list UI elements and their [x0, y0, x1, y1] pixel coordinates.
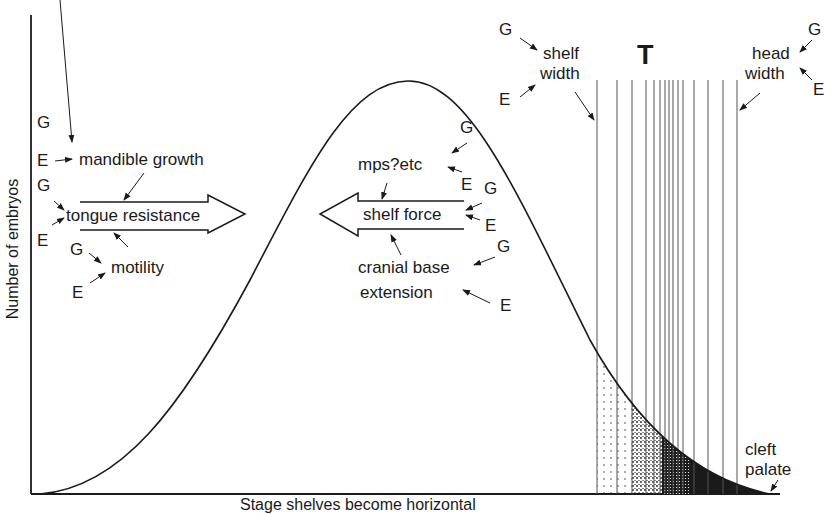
label-cranial-base: cranial base	[358, 258, 450, 277]
cranial-base-e: E	[500, 296, 511, 315]
y-axis-label: Number of embryos	[4, 174, 22, 324]
x-axis-label: Stage shelves become horizontal	[240, 496, 476, 514]
label-motility: motility	[111, 258, 164, 277]
mps-g: G	[460, 118, 473, 137]
label-palate: palate	[745, 460, 791, 479]
pointer-arrows	[52, 0, 812, 491]
label-shelf-force: shelf force	[363, 205, 441, 224]
motility-g: G	[70, 240, 83, 259]
label-head: head	[752, 44, 790, 63]
mandible-growth-g: G	[37, 113, 50, 132]
tongue-resistance-g: G	[37, 176, 50, 195]
tongue-resistance-e: E	[37, 231, 48, 250]
label-mps-etc: mps?etc	[358, 155, 422, 174]
label-extension: extension	[360, 283, 433, 302]
threshold-label: T	[637, 40, 654, 71]
label-cleft: cleft	[745, 440, 776, 459]
label-mandible-growth: mandible growth	[79, 150, 204, 169]
label-shelf: shelf	[543, 44, 579, 63]
label-tongue-resistance: tongue resistance	[66, 206, 200, 225]
label-width-shelf: width	[540, 64, 580, 83]
motility-e: E	[72, 283, 83, 302]
mps-e: E	[461, 175, 472, 194]
shelf-force-e: E	[485, 216, 496, 235]
shelf-width-g: G	[499, 20, 512, 39]
head-width-e: E	[813, 80, 824, 99]
mandible-growth-e: E	[37, 151, 48, 170]
label-width-head: width	[745, 64, 785, 83]
shelf-force-g: G	[484, 179, 497, 198]
cranial-base-g: G	[497, 237, 510, 256]
head-width-g: G	[808, 20, 821, 39]
shelf-width-e: E	[499, 90, 510, 109]
